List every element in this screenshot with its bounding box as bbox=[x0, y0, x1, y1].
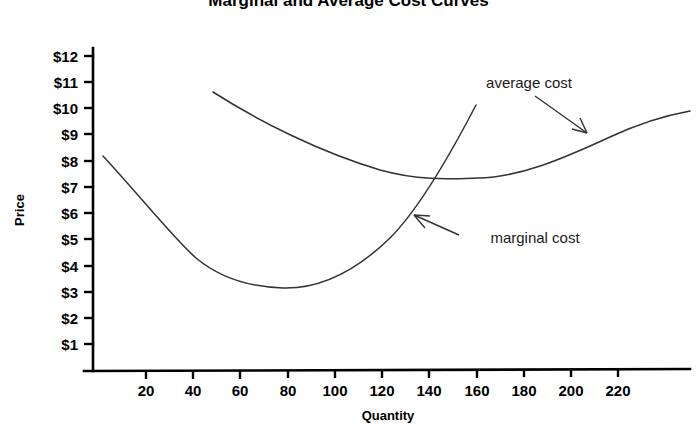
x-tick-label-120: 120 bbox=[369, 382, 394, 399]
x-tick-label-220: 220 bbox=[605, 382, 630, 399]
y-tick-label-9: $9 bbox=[61, 126, 78, 143]
x-tick-label-180: 180 bbox=[511, 382, 536, 399]
x-tick-label-100: 100 bbox=[322, 382, 347, 399]
y-tick-label-2: $2 bbox=[61, 310, 78, 327]
x-tick-label-20: 20 bbox=[138, 382, 155, 399]
y-tick-label-1: $1 bbox=[61, 336, 78, 353]
average-cost-pointer bbox=[535, 96, 587, 133]
y-tick-label-4: $4 bbox=[61, 258, 78, 275]
x-axis-title: Quantity bbox=[362, 408, 415, 423]
x-tick-label-80: 80 bbox=[280, 382, 297, 399]
x-tick-label-60: 60 bbox=[232, 382, 249, 399]
x-tick-label-160: 160 bbox=[464, 382, 489, 399]
y-tick-label-5: $5 bbox=[61, 231, 78, 248]
chart-page: Marginal and Average Cost Curves $12 $11… bbox=[0, 0, 697, 429]
average-cost-curve bbox=[213, 92, 690, 179]
x-tick-label-40: 40 bbox=[185, 382, 202, 399]
y-tick-label-6: $6 bbox=[61, 205, 78, 222]
y-tick-label-7: $7 bbox=[61, 179, 78, 196]
marginal-cost-label: marginal cost bbox=[490, 229, 580, 246]
marginal-cost-pointer bbox=[414, 215, 459, 235]
x-tick-label-200: 200 bbox=[558, 382, 583, 399]
cost-curves-plot: $12 $11 $10 $9 $8 $7 $6 $5 $4 $3 $2 $1 2… bbox=[0, 0, 697, 429]
y-tick-label-8: $8 bbox=[61, 153, 78, 170]
y-tick-label-11: $11 bbox=[54, 74, 78, 91]
x-tick-label-140: 140 bbox=[416, 382, 441, 399]
y-tick-marks bbox=[84, 56, 93, 344]
y-tick-label-12: $12 bbox=[53, 48, 78, 65]
y-axis-title: Price bbox=[12, 194, 27, 226]
average-cost-label: average cost bbox=[486, 74, 573, 91]
marginal-cost-curve bbox=[103, 105, 476, 288]
x-axis-line bbox=[84, 369, 690, 371]
y-tick-label-3: $3 bbox=[61, 284, 78, 301]
y-tick-label-10: $10 bbox=[53, 100, 78, 117]
